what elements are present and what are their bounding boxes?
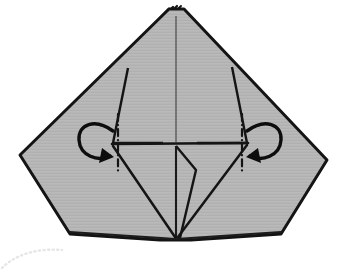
origami-diagram-figure: Origami folding step diagram Pentagon-li… [0, 0, 351, 272]
folded-paper-body [20, 9, 327, 240]
dotted-arc-watermark [2, 250, 62, 268]
origami-illustration [0, 0, 351, 272]
